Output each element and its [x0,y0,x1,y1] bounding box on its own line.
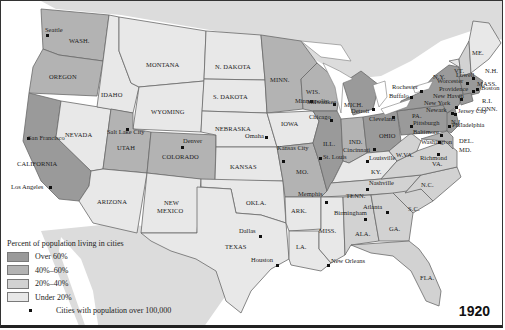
city-dot-icon [265,136,268,139]
state-label: TENN. [346,192,365,199]
state-label: R.I. [482,97,492,104]
city-label: Baltimore [413,128,439,135]
state-label: MEXICO [157,207,183,214]
city-label: Los Angeles [11,183,43,190]
legend-item-cities: Cities with population over 100,000 [7,306,207,315]
state-arkansas [285,197,321,231]
state-label: ILL. [323,140,335,147]
city-label: St. Louis [323,153,346,160]
state-label: KANSAS [230,163,257,170]
state-label: LA. [296,243,307,250]
city-label: Kansas City [277,144,309,151]
state-label: IOWA [281,120,298,127]
state-label: IDAHO [101,91,122,98]
city-label: Lowell [456,71,474,78]
city-dot-icon [476,88,479,91]
city-dot-icon [410,96,413,99]
city-label: San Francisco [28,134,65,141]
city-label: Washington [421,138,452,145]
city-label: New Orleans [331,257,365,264]
city-label: Seattle [45,26,63,33]
city-dot-icon [29,309,32,312]
state-label: OKLA. [246,199,266,206]
city-label: Salt Lake City [107,128,145,135]
city-label: Rochester [392,83,418,90]
state-label: S.C. [408,205,420,212]
state-north-dakota [204,31,265,80]
state-label: WYOMING [151,108,185,115]
state-label: MO. [296,168,308,175]
state-label: ME. [472,49,484,56]
state-label: ARK. [291,207,307,214]
city-label: New York [424,99,450,106]
city-label: Richmond [420,154,447,161]
city-label: Buffalo [389,92,409,99]
city-label: New Haven [433,92,464,99]
city-label: Jersey City [458,107,487,114]
city-dot-icon [319,157,322,160]
city-label: Pittsburgh [413,119,440,126]
legend-swatch [7,292,29,302]
state-label: NEVADA [65,131,92,138]
city-dot-icon [454,113,457,116]
state-label: CALIFORNIA [17,160,57,167]
state-label: MD. [459,146,471,153]
city-label: Cleveland [369,115,395,122]
city-dot-icon [49,186,52,189]
city-label: Houston [251,256,273,263]
legend-label: Over 60% [35,252,68,261]
state-label: MONTANA [146,61,179,68]
city-label: Milwaukee [307,98,336,105]
legend-title: Percent of population living in cities [7,239,207,248]
state-wyoming [133,81,204,132]
city-label: Detroit [351,107,369,114]
state-label: MISS. [319,227,336,234]
state-label: OREGON [49,73,77,80]
year-label: 1920 [459,303,490,319]
legend-label: 40%–60% [35,266,68,275]
city-label: Denver [183,137,202,144]
city-label: Philadelphia [452,121,485,128]
state-label: N.C. [421,181,434,188]
state-label: WASH. [69,37,90,44]
city-dot-icon [472,90,475,93]
legend-swatch [7,265,29,275]
state-label: TEXAS [225,243,246,250]
city-label: Worcester [437,77,463,84]
city-dot-icon [259,235,262,238]
state-label: IND. [349,138,363,145]
city-label: Atlanta [363,203,382,210]
legend-swatch [7,279,29,289]
state-label: N. DAKOTA [215,63,251,70]
city-label: Boston [481,84,499,91]
state-label: S. DAKOTA [213,93,248,100]
city-dot-icon [455,106,458,109]
legend-item-over-60: Over 60% [7,251,207,263]
state-label: WIS. [306,88,320,95]
city-dot-icon [366,188,369,191]
city-dot-icon [373,148,376,151]
city-label: Omaha [245,132,264,139]
legend-item-40-60: 40%–60% [7,265,207,277]
legend-label: Under 20% [35,293,72,302]
city-label: Louisville [369,154,395,161]
city-label: Nashville [369,179,394,186]
city-dot-icon [466,82,469,85]
legend-item-under-20: Under 20% [7,292,207,304]
city-dot-icon [372,108,375,111]
state-label: N.H. [485,67,498,74]
state-label: ARIZONA [97,198,127,205]
state-label: GA. [389,225,400,232]
state-label: ALA. [355,230,370,237]
state-montana [119,17,206,87]
city-dot-icon [386,211,389,214]
city-dot-icon [181,146,184,149]
city-dot-icon [420,90,423,93]
state-label: NEW [164,199,179,206]
state-label: VA. [432,160,442,167]
city-label: Memphis [298,190,323,197]
state-label: FLA. [420,274,434,281]
city-dot-icon [276,264,279,267]
city-dot-icon [448,125,451,128]
city-label: Providence [439,85,468,92]
